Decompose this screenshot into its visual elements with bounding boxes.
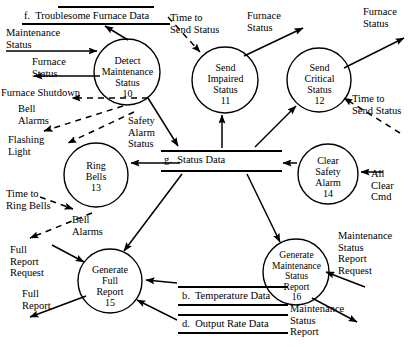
flow-label-time-to-ring-bells: Time to Ring Bells — [6, 188, 51, 211]
flow-p12-to-furnace-status — [344, 38, 404, 68]
flow-p10-to-store-f — [105, 26, 128, 40]
flow-label-furnace-shutdown: Furnace Shutdown — [1, 87, 80, 99]
process-label-11: SendImpairedStatus11 — [193, 62, 258, 106]
flow-label-safety-alarm-status: Safety Alarm Status — [128, 115, 155, 150]
process-label-15: GenerateFullReport15 — [78, 264, 142, 308]
flow-store-g-to-p15 — [124, 174, 182, 251]
flow-label-full-report: Full Report — [22, 288, 51, 311]
flow-label-maintenance-status-report-request: Maintenance Status Report Request — [338, 230, 392, 276]
data-store-d-label: d. Output Rate Data — [182, 318, 269, 329]
flow-store-g-to-p16 — [247, 174, 280, 242]
flow-label-maintenance-status-in: Maintenance Status — [6, 27, 60, 50]
flow-label-bell-alarms-upper: Bell Alarms — [18, 103, 49, 126]
flow-label-bell-alarms-lower: Bell Alarms — [72, 214, 103, 237]
process-label-12: SendCriticalStatus12 — [288, 62, 351, 106]
flow-label-full-report-request: Full Report Request — [10, 244, 44, 279]
flow-label-maintenance-status-report: Maintenance Status Report — [290, 303, 344, 338]
flow-p10-bell-alarms — [44, 106, 123, 131]
data-store-g-label: g. Status Data — [164, 154, 225, 165]
flow-full-report-request-to-p15 — [52, 245, 84, 262]
flow-store-g-to-p12 — [255, 106, 296, 147]
flow-store-d-to-p15 — [137, 300, 177, 320]
flow-label-time-to-send-status-right: Time to Send Status — [352, 93, 401, 116]
process-label-10: DetectMaintenanceStatus10 — [95, 55, 160, 99]
flow-p10-flashing-light — [68, 112, 134, 143]
flow-label-flashing-light: Flashing Light — [8, 134, 44, 157]
flow-label-furnace-status-mid: Furnace Status — [247, 10, 281, 33]
flow-store-b-to-p15 — [146, 280, 177, 283]
flow-label-all-clear-cmd: All Clear Cmd — [371, 168, 394, 203]
process-label-14: ClearSafetyAlarm14 — [299, 155, 357, 199]
data-store-f-label: f. Troublesome Furnace Data — [24, 10, 149, 21]
data-flow-diagram: DetectMaintenanceStatus10 SendImpairedSt… — [0, 0, 413, 347]
flow-label-furnace-status-left: Furnace Status — [32, 56, 66, 79]
process-label-13: RingBells13 — [66, 160, 126, 193]
flow-label-time-to-send-status-left: Time to Send Status — [170, 12, 219, 35]
flow-label-furnace-status-right: Furnace Status — [363, 6, 397, 29]
data-store-b-label: b. Temperature Data — [182, 290, 270, 301]
